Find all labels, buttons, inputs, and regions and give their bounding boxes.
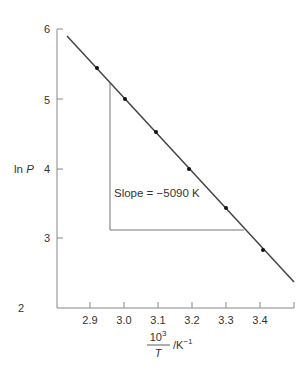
y-axis-label-fn: ln <box>14 163 26 175</box>
x-tick-label-3-1: 3.1 <box>150 314 165 326</box>
data-point <box>95 66 99 70</box>
x-tick-label-3-0: 3.0 <box>116 314 131 326</box>
x-axis-label-denominator: T <box>155 347 163 359</box>
fit-line <box>67 36 294 282</box>
y-tick-label-4: 4 <box>44 163 50 175</box>
y-tick-label-5: 5 <box>44 94 50 106</box>
y-tick-label-3: 3 <box>44 232 50 244</box>
data-point <box>154 130 158 134</box>
x-axis-label-numerator: 103 <box>150 329 167 343</box>
x-tick-label-3-4: 3.4 <box>252 314 267 326</box>
y-tick-label-2: 2 <box>18 302 24 314</box>
data-point <box>261 248 265 252</box>
y-axis-label: ln P <box>14 163 34 175</box>
data-point <box>187 167 191 171</box>
x-axis-label: 103 T /K−1 <box>147 329 193 359</box>
y-axis-label-var: P <box>26 163 34 175</box>
chart-canvas: 6 5 4 3 2 2.9 3.0 3.1 3.2 3.3 3.4 ln P 1… <box>0 0 308 368</box>
x-tick-label-3-2: 3.2 <box>184 314 199 326</box>
x-axis: 2.9 3.0 3.1 3.2 3.3 3.4 <box>57 302 294 326</box>
x-tick-label-2-9: 2.9 <box>82 314 97 326</box>
data-point <box>123 97 127 101</box>
x-axis-label-unit: /K−1 <box>173 337 193 351</box>
x-tick-label-3-3: 3.3 <box>218 314 233 326</box>
data-point <box>224 206 228 210</box>
slope-annotation: Slope = −5090 K <box>114 187 200 199</box>
y-tick-label-6: 6 <box>44 23 50 35</box>
